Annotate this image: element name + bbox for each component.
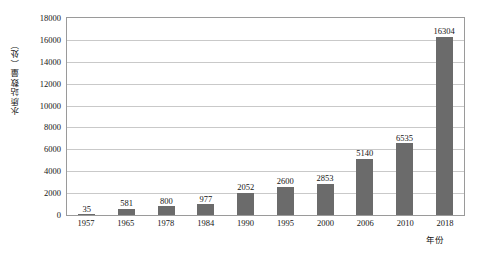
x-tick-label: 1984	[186, 218, 226, 232]
x-tick-label: 1990	[226, 218, 266, 232]
bar-value-label: 800	[160, 197, 173, 206]
bar-value-label: 581	[120, 199, 133, 208]
bar[interactable]	[197, 204, 214, 215]
bar-value-label: 16304	[434, 27, 455, 36]
y-tick-label: 16000	[40, 35, 61, 45]
y-tick-label: 0	[57, 210, 61, 220]
x-tick-label: 2006	[345, 218, 385, 232]
bar-group[interactable]: 2853	[305, 18, 345, 215]
bar-group[interactable]: 35	[67, 18, 107, 215]
y-tick-label: 12000	[40, 79, 61, 89]
x-tick-label: 2018	[425, 218, 465, 232]
y-tick-label: 6000	[44, 144, 61, 154]
bar-chart: 水质站数量（处） 18000 16000 14000 12000 10000 8…	[0, 0, 483, 264]
bar-value-label: 6535	[396, 134, 413, 143]
bar-group[interactable]: 6535	[385, 18, 425, 215]
bar[interactable]	[356, 159, 373, 215]
bar-group[interactable]: 977	[186, 18, 226, 215]
y-axis-title: 水质站数量（处）	[8, 22, 24, 132]
bar-value-label: 2052	[237, 183, 254, 192]
y-tick-label: 8000	[44, 122, 61, 132]
x-tick-label: 1978	[146, 218, 186, 232]
x-tick-label: 2010	[385, 218, 425, 232]
bar-group[interactable]: 2052	[226, 18, 266, 215]
y-tick-label: 18000	[40, 13, 61, 23]
y-tick-label: 14000	[40, 57, 61, 67]
y-tick-label: 4000	[44, 166, 61, 176]
bar-group[interactable]: 5140	[345, 18, 385, 215]
x-tick-label: 1965	[106, 218, 146, 232]
bar[interactable]	[317, 184, 334, 215]
bar-value-label: 35	[83, 205, 92, 214]
bar-group[interactable]: 16304	[424, 18, 464, 215]
bars-layer: 355818009772052260028535140653516304	[67, 18, 464, 215]
plot-area: 355818009772052260028535140653516304	[66, 17, 465, 216]
x-tick-label: 1995	[266, 218, 306, 232]
bar-group[interactable]: 581	[107, 18, 147, 215]
bar-value-label: 2853	[317, 174, 334, 183]
bar[interactable]	[118, 209, 135, 215]
bar[interactable]	[436, 37, 453, 215]
x-axis-title: 年份	[405, 233, 465, 245]
bar[interactable]	[277, 187, 294, 215]
y-tick-label: 2000	[44, 188, 61, 198]
bar[interactable]	[396, 143, 413, 215]
x-axis-tick-labels: 1957196519781984199019952000200620102018	[66, 218, 465, 232]
bar-group[interactable]: 800	[146, 18, 186, 215]
x-tick-label: 2000	[305, 218, 345, 232]
bar[interactable]	[158, 206, 175, 215]
x-tick-label: 1957	[66, 218, 106, 232]
bar-group[interactable]: 2600	[266, 18, 306, 215]
bar-value-label: 2600	[277, 177, 294, 186]
bar-value-label: 977	[200, 195, 213, 204]
bar-value-label: 5140	[356, 149, 373, 158]
y-axis-tick-labels: 18000 16000 14000 12000 10000 8000 6000 …	[24, 17, 64, 216]
y-tick-label: 10000	[40, 101, 61, 111]
bar[interactable]	[237, 193, 254, 215]
bar[interactable]	[78, 214, 95, 215]
